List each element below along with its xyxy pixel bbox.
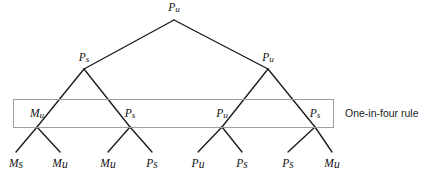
tree-edge [222,127,242,152]
tree-edges-group [16,20,332,152]
tree-node-label-n1: Ps [78,51,90,64]
tree-edge [222,69,268,127]
leaf-node-label-l7: Mu [323,157,340,170]
tree-node-label-n3: Mu [29,107,45,120]
leaf-node-label-l0: Ms [8,157,24,170]
group-box-layer [14,100,334,128]
leaf-node-label-l5: Ps [235,157,248,170]
tree-node-label-n0: Pu [167,1,180,14]
one-in-four-rule-annotation: One-in-four rule [345,107,419,119]
leaf-node-label-l6: Ps [281,157,294,170]
tree-node-label-n4: Ps [124,107,136,120]
tree-edge [288,127,315,152]
leaf-node-label-l4: Pu [191,157,205,170]
leaf-node-label-l3: Ps [145,157,158,170]
tree-edge [84,69,130,127]
tree-edge [130,127,152,152]
tree-edge [37,127,60,152]
leaf-node-label-l1: Mu [51,157,68,170]
tree-edge [315,127,332,152]
tree-diagram-canvas: PuPsPuMuPsPuPsMsMuMuPsPuPsPsMu One-in-fo… [0,0,437,177]
tree-diagram-figure: PuPsPuMuPsPuPsMsMuMuPsPuPsPsMu One-in-fo… [0,0,437,177]
tree-edge [198,127,222,152]
tree-edge [174,20,268,69]
tree-node-label-n2: Pu [261,51,274,64]
tree-edge [268,69,315,127]
leaf-node-label-l2: Mu [99,157,116,170]
tree-edge [84,20,174,69]
one-in-four-rule-box [14,100,334,128]
tree-edge [16,127,37,152]
tree-node-label-n5: Pu [215,107,228,120]
tree-nodes-group: PuPsPuMuPsPuPsMsMuMuPsPuPsPsMu [8,1,340,170]
tree-node-label-n6: Ps [309,107,321,120]
tree-edge [108,127,130,152]
annotation-layer: One-in-four rule [345,107,419,119]
